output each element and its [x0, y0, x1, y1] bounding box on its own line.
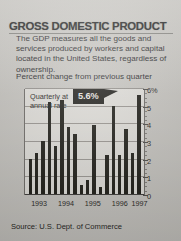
- x-tick-label: 1993: [31, 199, 47, 208]
- y-tick-label: 6%: [147, 86, 158, 95]
- callout-pointer: [104, 89, 118, 98]
- y-tick-mark: [143, 89, 148, 90]
- callout-label: 5.6%: [73, 89, 104, 104]
- bar: [60, 100, 63, 194]
- y-tick-label: 3: [147, 139, 151, 148]
- y-tick-label: 2: [147, 156, 151, 165]
- bar: [73, 134, 76, 194]
- bar: [29, 159, 32, 194]
- x-tick-label: 1996: [112, 199, 128, 208]
- y-tick-mark: [143, 160, 148, 161]
- bar: [48, 102, 51, 194]
- y-tick-label: 0: [147, 192, 151, 201]
- y-minor-tick: [144, 102, 147, 103]
- y-tick-mark: [143, 124, 148, 125]
- inline-annotation-line2: annual rate: [30, 102, 68, 111]
- x-tick-label: 1994: [58, 199, 74, 208]
- y-minor-tick: [144, 146, 147, 147]
- y-tick-label: 1: [147, 174, 151, 183]
- page-title: GROSS DOMESTIC PRODUCT: [9, 20, 175, 32]
- inline-annotation: Quarterly at annual rate: [30, 93, 68, 110]
- bar: [80, 185, 83, 194]
- axis-baseline: [25, 194, 144, 195]
- y-tick-label: 5: [147, 103, 151, 112]
- bar-slot: [136, 89, 142, 194]
- y-minor-tick: [144, 155, 147, 156]
- bar: [118, 155, 121, 194]
- bar: [112, 106, 115, 194]
- bar: [105, 155, 108, 194]
- y-tick-mark: [143, 107, 148, 108]
- y-minor-tick: [144, 191, 147, 192]
- bar: [35, 153, 38, 194]
- y-minor-tick: [144, 111, 147, 112]
- y-tick-mark: [143, 195, 148, 196]
- source-note: Source: U.S. Dept. of Commerce: [11, 222, 122, 231]
- bar: [124, 129, 127, 194]
- y-minor-tick: [144, 173, 147, 174]
- x-tick-label: 1995: [85, 199, 101, 208]
- y-minor-tick: [144, 151, 147, 152]
- bar: [67, 127, 70, 194]
- bar: [137, 95, 140, 194]
- bar: [86, 180, 89, 194]
- y-axis: 0123456%: [147, 89, 173, 196]
- bar: [92, 125, 95, 194]
- chart-subtitle: Percent change from previous quarter: [16, 72, 174, 82]
- y-minor-tick: [144, 182, 147, 183]
- y-minor-tick: [144, 120, 147, 121]
- x-tick-label: 1997: [132, 199, 148, 208]
- bar: [54, 146, 57, 194]
- plot-area: Quarterly at annual rate: [24, 89, 145, 195]
- y-tick-mark: [143, 177, 148, 178]
- bar: [41, 141, 44, 194]
- y-minor-tick: [144, 164, 147, 165]
- y-minor-tick: [144, 93, 147, 94]
- gdp-bar-chart: Quarterly at annual rate 5.6% 0123456% 1…: [9, 86, 173, 212]
- y-minor-tick: [144, 98, 147, 99]
- description-text: The GDP measures all the goods and servi…: [16, 34, 168, 75]
- y-tick-label: 4: [147, 121, 151, 130]
- x-axis: 19931994199519961997: [24, 199, 145, 211]
- y-minor-tick: [144, 169, 147, 170]
- y-tick-mark: [143, 142, 148, 143]
- y-minor-tick: [144, 138, 147, 139]
- value-callout: 5.6%: [73, 85, 104, 104]
- infographic-page: GROSS DOMESTIC PRODUCT The GDP measures …: [0, 0, 181, 241]
- y-minor-tick: [144, 129, 147, 130]
- y-minor-tick: [144, 116, 147, 117]
- bar: [99, 187, 102, 194]
- y-minor-tick: [144, 186, 147, 187]
- y-minor-tick: [144, 133, 147, 134]
- bar: [131, 153, 134, 194]
